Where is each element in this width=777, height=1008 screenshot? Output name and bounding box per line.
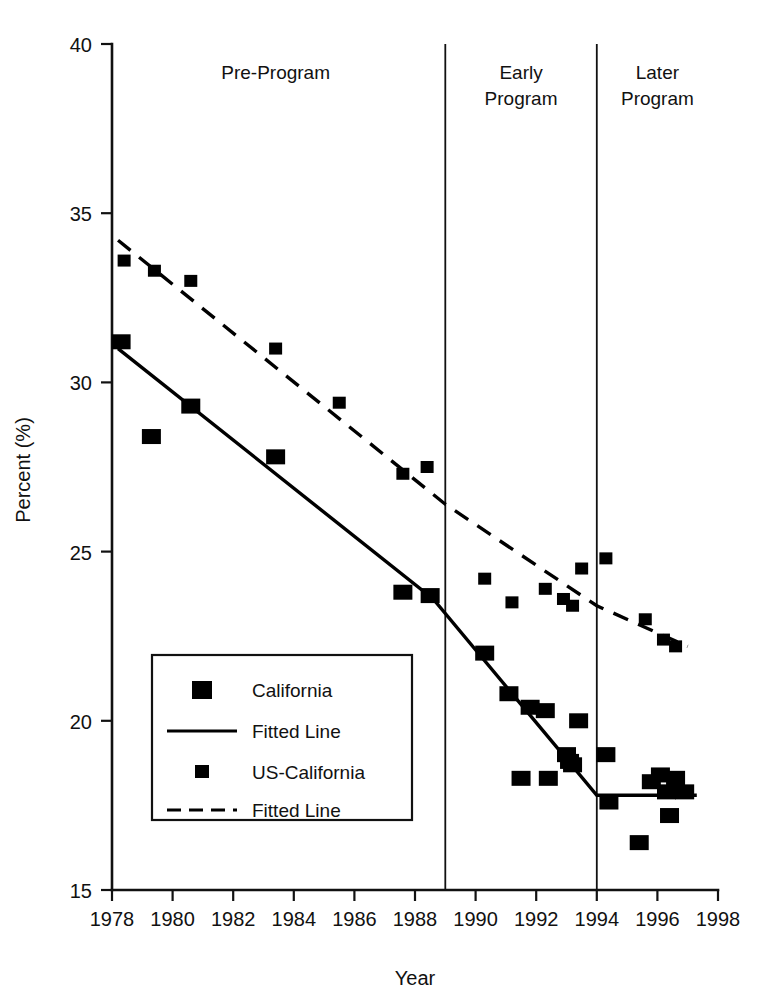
data-point-marker: [475, 646, 494, 661]
x-axis-ticks: [112, 890, 718, 901]
data-point-marker: [142, 429, 161, 444]
legend: CaliforniaFitted LineUS-CaliforniaFitted…: [152, 655, 412, 821]
chart-canvas: 152025303540 197819801982198419861988199…: [0, 0, 777, 1008]
data-point-marker: [478, 573, 491, 585]
region-label-0: Pre-Program: [221, 62, 330, 83]
y-tick-label: 20: [70, 711, 92, 733]
data-point-marker: [333, 397, 346, 409]
region-label-1: Program: [485, 88, 558, 109]
data-point-marker: [569, 713, 588, 728]
y-tick-label: 30: [70, 372, 92, 394]
x-tick-label: 1978: [90, 908, 135, 930]
x-tick-label: 1986: [332, 908, 377, 930]
data-point-marker: [118, 255, 131, 267]
legend-label-us-california-fit: Fitted Line: [252, 800, 341, 821]
data-point-marker: [266, 449, 285, 464]
data-point-marker: [596, 747, 615, 762]
x-axis-tick-labels: 1978198019821984198619881990199219941996…: [90, 908, 741, 930]
data-point-marker: [539, 771, 558, 786]
region-label-1: Early: [499, 62, 543, 83]
x-tick-label: 1988: [393, 908, 438, 930]
legend-symbol-square-large: [192, 681, 212, 699]
x-tick-label: 1998: [696, 908, 741, 930]
y-axis-tick-labels: 152025303540: [70, 34, 92, 902]
y-axis-ticks: [101, 44, 112, 890]
y-tick-label: 25: [70, 542, 92, 564]
y-tick-label: 15: [70, 880, 92, 902]
x-tick-label: 1996: [635, 908, 680, 930]
data-point-marker: [599, 552, 612, 564]
x-tick-label: 1982: [211, 908, 256, 930]
region-label-2: Later: [636, 62, 680, 83]
x-tick-label: 1990: [453, 908, 498, 930]
data-point-marker: [499, 686, 518, 701]
data-point-marker: [666, 771, 685, 786]
legend-label-california-fit: Fitted Line: [252, 721, 341, 742]
data-point-marker: [669, 640, 682, 652]
data-point-marker: [148, 265, 161, 277]
data-point-marker: [396, 468, 409, 480]
x-tick-label: 1980: [150, 908, 195, 930]
data-point-marker: [421, 588, 440, 603]
region-label-2: Program: [621, 88, 694, 109]
data-point-marker: [184, 275, 197, 287]
x-tick-label: 1984: [272, 908, 317, 930]
x-axis-title: Year: [395, 967, 436, 989]
data-point-marker: [181, 399, 200, 414]
data-point-marker: [269, 343, 282, 355]
data-point-marker: [563, 757, 582, 772]
y-tick-label: 40: [70, 34, 92, 56]
data-point-marker: [505, 596, 518, 608]
legend-label-california: California: [252, 680, 333, 701]
data-point-marker: [421, 461, 434, 473]
data-point-marker: [657, 634, 670, 646]
chart-figure: 152025303540 197819801982198419861988199…: [0, 0, 777, 1008]
data-point-marker: [630, 835, 649, 850]
data-point-marker: [512, 771, 531, 786]
data-point-marker: [536, 703, 555, 718]
x-tick-label: 1992: [514, 908, 559, 930]
legend-symbol-square-small: [195, 765, 209, 778]
data-point-marker: [599, 795, 618, 810]
data-point-marker: [566, 600, 579, 612]
data-point-marker: [393, 585, 412, 600]
data-point-marker: [675, 784, 694, 799]
data-point-marker: [539, 583, 552, 595]
y-axis-title: Percent (%): [12, 417, 34, 523]
legend-label-us-california: US-California: [252, 762, 365, 783]
data-point-marker: [112, 334, 131, 349]
data-point-marker: [639, 613, 652, 625]
x-tick-label: 1994: [575, 908, 620, 930]
data-point-marker: [660, 808, 679, 823]
y-tick-label: 35: [70, 203, 92, 225]
data-point-marker: [657, 784, 676, 799]
region-annotations: Pre-ProgramEarlyProgramLaterProgram: [221, 62, 694, 109]
data-point-marker: [575, 563, 588, 575]
